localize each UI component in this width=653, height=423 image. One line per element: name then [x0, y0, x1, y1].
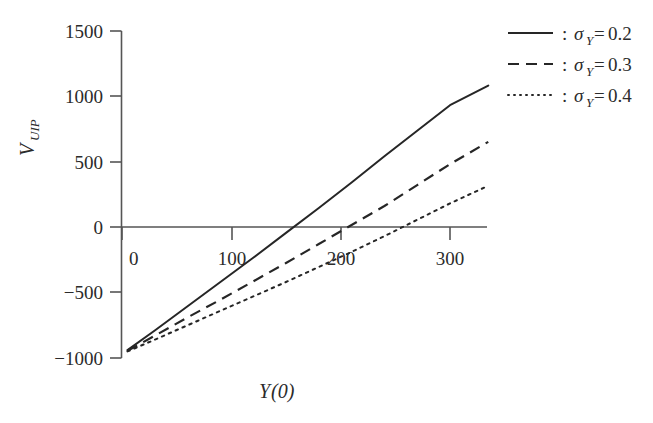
legend-sigma-symbol-2: σ [574, 54, 584, 75]
y-tick-label-500: 500 [75, 152, 104, 173]
x-axis-title: Y (0) [259, 380, 295, 403]
legend-equals-3: = [594, 85, 605, 106]
y-tick-label-1500: 1500 [65, 21, 103, 42]
legend-separator-2: : [562, 54, 567, 75]
x-tick-label-200: 200 [327, 248, 356, 269]
y-tick-label-1000: 1000 [65, 86, 103, 107]
y-tick-label-0: 0 [94, 217, 104, 238]
legend-sigma-symbol-1: σ [574, 23, 584, 44]
x-tick-label-0: 0 [129, 248, 139, 269]
legend-separator-1: : [562, 23, 567, 44]
legend-value-1: 0.2 [608, 23, 632, 44]
y-tick-label-minus1000: −1000 [54, 348, 103, 369]
x-axis-title-arg: (0) [271, 380, 295, 403]
x-tick-label-300: 300 [436, 248, 465, 269]
x-axis-title-symbol: Y [259, 380, 272, 402]
legend-value-2: 0.3 [608, 54, 632, 75]
legend-equals-1: = [594, 23, 605, 44]
y-tick-label-minus500: −500 [64, 282, 103, 303]
figure-container: 1500 1000 500 0 −500 −1000 V UIP 0 100 2… [0, 0, 653, 423]
chart-canvas: 1500 1000 500 0 −500 −1000 V UIP 0 100 2… [0, 0, 653, 423]
legend-separator-3: : [562, 85, 567, 106]
legend-equals-2: = [594, 54, 605, 75]
legend-value-3: 0.4 [608, 85, 632, 106]
legend-sigma-symbol-3: σ [574, 85, 584, 106]
y-axis-title-subscript: UIP [27, 119, 42, 141]
